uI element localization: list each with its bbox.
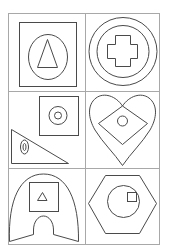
outer-ellipse-shape (21, 140, 29, 154)
small-triangle-shape (38, 193, 48, 201)
square-shape (40, 97, 79, 136)
inner-circle-shape (55, 112, 62, 119)
small-circle-shape (118, 116, 128, 126)
inner-ellipse-shape (23, 144, 26, 151)
triangle-shape (38, 40, 58, 68)
outer-circle-shape (49, 107, 67, 125)
cell-r1-c2 (89, 18, 157, 86)
arch-shape (9, 174, 78, 242)
square-shape (30, 183, 59, 212)
cell-r2-c2 (90, 95, 156, 165)
outer-circle-shape (89, 18, 157, 86)
shape-matrix-figure (0, 0, 173, 251)
square-shape (20, 23, 77, 87)
cross-shape (108, 36, 138, 67)
cell-r2-c1 (12, 97, 79, 164)
diamond-shape (99, 106, 148, 145)
inner-circle-shape (97, 26, 149, 78)
cell-r3-c2 (89, 176, 157, 234)
cell-r1-c1 (20, 23, 77, 87)
hexagon-shape (89, 176, 157, 234)
small-square-shape (128, 193, 137, 202)
cell-r3-c1 (9, 174, 78, 242)
